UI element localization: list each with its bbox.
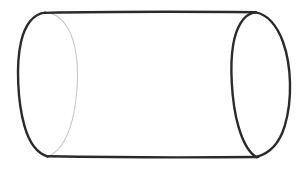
cylinder-side-wall-fill	[48, 12, 261, 156]
cylinder-figure-canvas	[0, 0, 307, 172]
top-silhouette-line	[45, 12, 256, 13]
cylinder-body-fill	[18, 12, 290, 158]
cylinder-drawing	[0, 0, 307, 172]
bottom-silhouette-line	[48, 156, 258, 157]
